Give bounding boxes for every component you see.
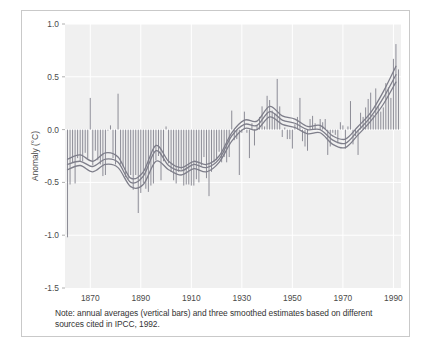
y-axis-label: Anomaly (°C) — [30, 131, 40, 181]
chart-plot-area: 1.00.50.0-0.5-1.0-1.51870189019101930195… — [22, 11, 409, 336]
xtick-label: 1910 — [182, 293, 201, 303]
xtick-label: 1930 — [233, 293, 252, 303]
ytick-label: -1.0 — [45, 230, 60, 240]
figure-container: 1.00.50.0-0.5-1.0-1.51870189019101930195… — [21, 10, 410, 337]
ytick-label: 0.5 — [47, 72, 59, 82]
ytick-label: -1.5 — [45, 283, 60, 293]
figure-caption: Note: annual averages (vertical bars) an… — [55, 308, 400, 329]
xtick-label: 1950 — [283, 293, 302, 303]
xtick-label: 1870 — [81, 293, 100, 303]
ytick-label: 0.0 — [47, 125, 59, 135]
xtick-label: 1890 — [131, 293, 150, 303]
xtick-label: 1990 — [384, 293, 403, 303]
ytick-label: 1.0 — [47, 19, 59, 29]
anomaly-chart-svg: 1.00.50.0-0.5-1.0-1.51870189019101930195… — [22, 11, 409, 336]
xtick-label: 1970 — [334, 293, 353, 303]
ytick-label: -0.5 — [45, 177, 60, 187]
